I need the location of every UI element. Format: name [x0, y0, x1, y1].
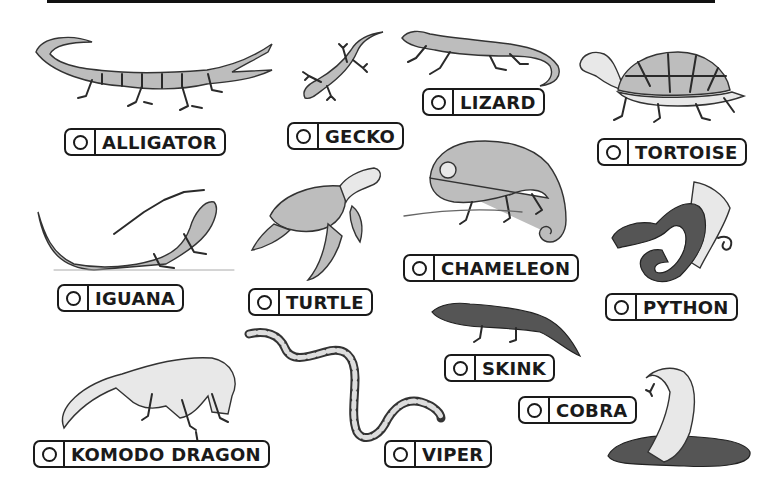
label-viper[interactable]: VIPER: [384, 440, 492, 468]
circle-checkbox-icon: [296, 129, 311, 144]
label-text: VIPER: [416, 442, 490, 466]
label-cobra[interactable]: COBRA: [518, 396, 637, 424]
circle-checkbox-icon: [73, 135, 88, 150]
checkbox-iguana[interactable]: [59, 286, 89, 310]
checkbox-alligator[interactable]: [66, 130, 96, 154]
label-text: PYTHON: [637, 295, 736, 319]
label-gecko[interactable]: GECKO: [287, 122, 404, 150]
label-text: TORTOISE: [629, 140, 745, 164]
label-text: SKINK: [476, 356, 553, 380]
checkbox-viper[interactable]: [386, 442, 416, 466]
circle-checkbox-icon: [431, 95, 446, 110]
label-text: COBRA: [550, 398, 635, 422]
top-border-bar: [47, 0, 715, 3]
checkbox-chameleon[interactable]: [405, 256, 435, 280]
alligator-illustration: [32, 30, 274, 112]
circle-checkbox-icon: [606, 145, 621, 160]
checkbox-gecko[interactable]: [289, 124, 319, 148]
iguana-illustration: [34, 184, 234, 274]
viper-illustration: [245, 328, 445, 444]
label-text: GECKO: [319, 124, 402, 148]
label-chameleon[interactable]: CHAMELEON: [403, 254, 579, 282]
label-alligator[interactable]: ALLIGATOR: [64, 128, 226, 156]
circle-checkbox-icon: [66, 291, 81, 306]
circle-checkbox-icon: [393, 447, 408, 462]
lizard-illustration: [400, 28, 565, 90]
label-text: LIZARD: [454, 90, 543, 114]
circle-checkbox-icon: [527, 403, 542, 418]
checkbox-cobra[interactable]: [520, 398, 550, 422]
label-lizard[interactable]: LIZARD: [422, 88, 545, 116]
label-skink[interactable]: SKINK: [444, 354, 555, 382]
label-python[interactable]: PYTHON: [605, 293, 738, 321]
circle-checkbox-icon: [257, 295, 272, 310]
tortoise-illustration: [578, 46, 748, 124]
label-text: ALLIGATOR: [96, 130, 224, 154]
python-illustration: [608, 178, 736, 284]
label-iguana[interactable]: IGUANA: [57, 284, 184, 312]
label-tortoise[interactable]: TORTOISE: [597, 138, 747, 166]
gecko-illustration: [295, 28, 387, 102]
label-text: KOMODO DRAGON: [65, 442, 268, 466]
skink-illustration: [430, 300, 582, 358]
label-text: CHAMELEON: [435, 256, 577, 280]
circle-checkbox-icon: [453, 361, 468, 376]
circle-checkbox-icon: [412, 261, 427, 276]
checkbox-komodo-dragon[interactable]: [35, 442, 65, 466]
checkbox-python[interactable]: [607, 295, 637, 319]
komodo-dragon-illustration: [52, 344, 242, 444]
checkbox-turtle[interactable]: [250, 290, 280, 314]
label-text: IGUANA: [89, 286, 182, 310]
circle-checkbox-icon: [614, 300, 629, 315]
circle-checkbox-icon: [42, 447, 57, 462]
label-komodo-dragon[interactable]: KOMODO DRAGON: [33, 440, 270, 468]
checkbox-lizard[interactable]: [424, 90, 454, 114]
checkbox-skink[interactable]: [446, 356, 476, 380]
checkbox-tortoise[interactable]: [599, 140, 629, 164]
label-text: TURTLE: [280, 290, 371, 314]
turtle-illustration: [250, 166, 385, 282]
label-turtle[interactable]: TURTLE: [248, 288, 373, 316]
chameleon-illustration: [402, 138, 582, 250]
